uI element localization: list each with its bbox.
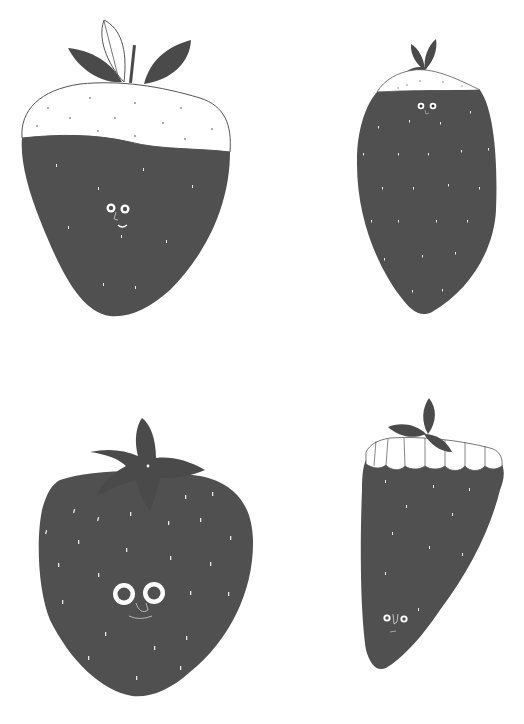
strawberry-top-right [357, 39, 497, 314]
berry-body [39, 471, 253, 696]
strawberries-illustration [0, 0, 524, 724]
white-cap [377, 70, 480, 92]
leaf-icon [144, 40, 191, 84]
leaf-icon [411, 44, 425, 70]
strawberry-bottom-right [361, 398, 504, 669]
leaf-icon [423, 398, 435, 434]
berry-body [361, 455, 504, 669]
leaf-icon [425, 39, 437, 70]
strawberry-top-left [22, 20, 231, 316]
leaf-icon [388, 424, 426, 436]
berry-body [357, 90, 497, 314]
stem [129, 45, 136, 83]
strawberry-bottom-left [39, 418, 253, 696]
illustration-canvas [0, 0, 524, 724]
